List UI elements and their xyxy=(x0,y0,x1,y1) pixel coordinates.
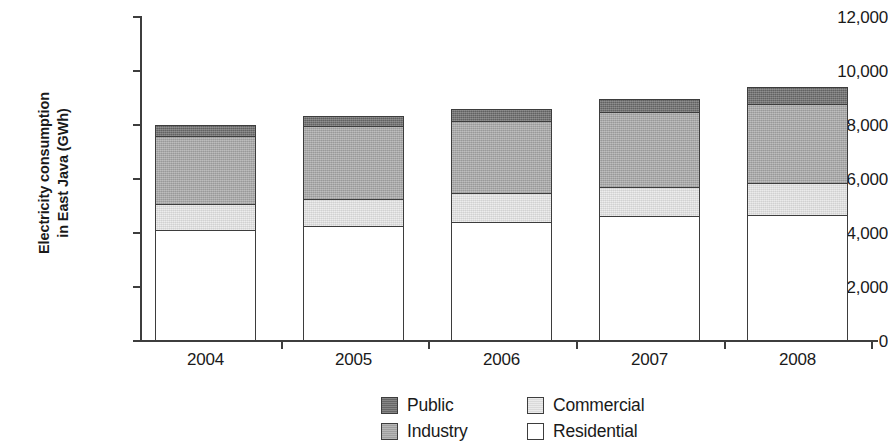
bar-stack-2008[interactable] xyxy=(747,83,848,341)
bar-segment-public-2008[interactable] xyxy=(747,87,848,105)
bar-stack-2007[interactable] xyxy=(599,95,700,341)
y-axis-title: Electricity consumption in East Java (GW… xyxy=(31,23,77,323)
bar-segment-industry-2006[interactable] xyxy=(451,121,552,195)
y-axis-title-line-1: Electricity consumption xyxy=(35,92,54,254)
bar-segment-residential-2004[interactable] xyxy=(155,230,256,341)
bar-segment-industry-2008[interactable] xyxy=(747,104,848,185)
legend-swatch-industry-icon xyxy=(381,423,398,440)
x-tick-mark-2 xyxy=(428,341,430,349)
bar-segment-industry-2005[interactable] xyxy=(303,126,404,201)
x-tick-mark-5 xyxy=(871,341,873,349)
x-axis-label-2007: 2007 xyxy=(599,350,700,370)
y-axis-line xyxy=(140,16,142,341)
x-axis-label-2008: 2008 xyxy=(747,350,848,370)
x-tick-mark-1 xyxy=(281,341,283,349)
chart-legend: Public Commercial Industry Residential xyxy=(381,392,644,444)
y-axis-title-line-2: in East Java (GWh) xyxy=(54,108,73,238)
bar-segment-commercial-2007[interactable] xyxy=(599,187,700,217)
bar-segment-residential-2006[interactable] xyxy=(451,222,552,341)
bar-segment-commercial-2006[interactable] xyxy=(451,193,552,223)
x-axis-label-2004: 2004 xyxy=(155,350,256,370)
legend-item-industry[interactable]: Industry xyxy=(381,418,515,444)
y-tick-label-12000: 12,000 xyxy=(776,9,888,26)
legend-swatch-commercial-icon xyxy=(527,397,544,414)
bar-segment-industry-2004[interactable] xyxy=(155,136,256,206)
bar-segment-residential-2007[interactable] xyxy=(599,216,700,341)
x-tick-mark-4 xyxy=(724,341,726,349)
bar-segment-commercial-2004[interactable] xyxy=(155,204,256,231)
x-axis-label-2005: 2005 xyxy=(303,350,404,370)
bar-stack-2005[interactable] xyxy=(303,112,404,341)
legend-label-residential: Residential xyxy=(553,421,637,442)
stacked-bar-chart: Electricity consumption in East Java (GW… xyxy=(0,0,888,445)
bar-stack-2006[interactable] xyxy=(451,105,552,341)
bar-segment-industry-2007[interactable] xyxy=(599,112,700,189)
x-axis-label-2006: 2006 xyxy=(451,350,552,370)
bar-segment-commercial-2008[interactable] xyxy=(747,183,848,216)
bar-stack-2004[interactable] xyxy=(155,121,256,341)
x-tick-mark-3 xyxy=(576,341,578,349)
legend-label-commercial: Commercial xyxy=(553,395,644,416)
legend-item-commercial[interactable]: Commercial xyxy=(527,392,644,418)
bar-segment-residential-2005[interactable] xyxy=(303,226,404,341)
legend-swatch-residential-icon xyxy=(527,423,544,440)
legend-label-public: Public xyxy=(407,395,453,416)
y-tick-label-10000: 10,000 xyxy=(776,63,888,80)
legend-item-residential[interactable]: Residential xyxy=(527,418,644,444)
bar-segment-residential-2008[interactable] xyxy=(747,215,848,341)
bar-segment-commercial-2005[interactable] xyxy=(303,199,404,227)
legend-item-public[interactable]: Public xyxy=(381,392,515,418)
legend-label-industry: Industry xyxy=(407,421,468,442)
legend-swatch-public-icon xyxy=(381,397,398,414)
